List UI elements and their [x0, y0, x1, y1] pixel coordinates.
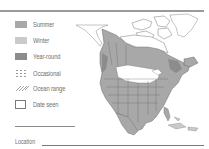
top-rule [0, 10, 204, 12]
legend-label: Year-round [33, 53, 60, 60]
ocean-range-hatch-icon [15, 84, 29, 92]
occasional-dots-icon [15, 69, 27, 77]
caribbean-islands [174, 117, 180, 121]
arctic-island-outline [158, 28, 172, 39]
legend-label: Occasional [33, 70, 61, 77]
legend-item-date-seen: Date seen [15, 100, 64, 109]
legend-label: Summer [33, 21, 54, 28]
legend-item-winter: Winter [15, 37, 53, 44]
legend-label: Winter [33, 37, 49, 44]
date-seen-checkbox[interactable] [15, 100, 26, 109]
legend-item-occasional: Occasional [15, 69, 67, 77]
legend-label: Ocean range [33, 85, 65, 92]
arctic-island-outline [132, 19, 152, 30]
location-label: Location [15, 138, 35, 145]
winter-swatch-icon [15, 37, 27, 44]
florida-shape [164, 107, 170, 121]
greenland-outline [170, 14, 198, 37]
legend-item-ocean-range: Ocean range [15, 84, 72, 92]
range-map [72, 13, 209, 138]
newfoundland-shape [184, 57, 198, 67]
legend-label: Date seen [33, 101, 58, 108]
summer-swatch-icon [15, 21, 27, 28]
arctic-island-outline [154, 16, 170, 27]
legend-item-year-round: Year-round [15, 53, 66, 60]
date-entry-line[interactable] [15, 126, 75, 127]
legend-item-summer: Summer [15, 21, 59, 28]
location-entry-line[interactable] [42, 145, 204, 146]
caribbean-islands [168, 123, 186, 129]
year-round-swatch-icon [15, 53, 27, 60]
caribbean-islands [188, 127, 198, 131]
